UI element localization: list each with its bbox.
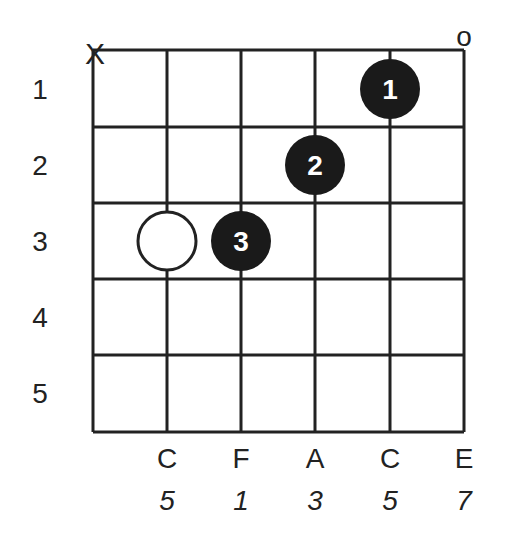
note-names: C F A C E — [157, 443, 473, 474]
fret-label-3: 3 — [32, 226, 48, 257]
interval-label: 7 — [456, 485, 473, 516]
note-label: E — [455, 443, 474, 474]
fret-label-1: 1 — [32, 74, 48, 105]
note-label: C — [380, 443, 400, 474]
muted-string-marker: X — [85, 37, 105, 70]
interval-label: 5 — [382, 485, 398, 516]
interval-label: 3 — [307, 485, 323, 516]
fret-label-2: 2 — [32, 150, 48, 181]
finger-number-2: 2 — [307, 150, 323, 181]
finger-number-3: 3 — [233, 226, 249, 257]
open-root-circle — [138, 212, 196, 270]
chord-diagram: X o 1 2 3 4 5 1 2 3 C F A C E 5 1 3 5 7 — [0, 0, 513, 550]
note-label: F — [232, 443, 249, 474]
fret-label-5: 5 — [32, 378, 48, 409]
finger-positions: 1 2 3 — [138, 59, 420, 271]
interval-label: 5 — [159, 485, 175, 516]
interval-labels: 5 1 3 5 7 — [159, 485, 473, 516]
interval-label: 1 — [233, 485, 249, 516]
finger-number-1: 1 — [382, 74, 398, 105]
fret-label-4: 4 — [32, 302, 48, 333]
open-string-marker: o — [456, 21, 472, 52]
fret-labels: 1 2 3 4 5 — [32, 74, 48, 409]
note-label: C — [157, 443, 177, 474]
note-label: A — [306, 443, 325, 474]
